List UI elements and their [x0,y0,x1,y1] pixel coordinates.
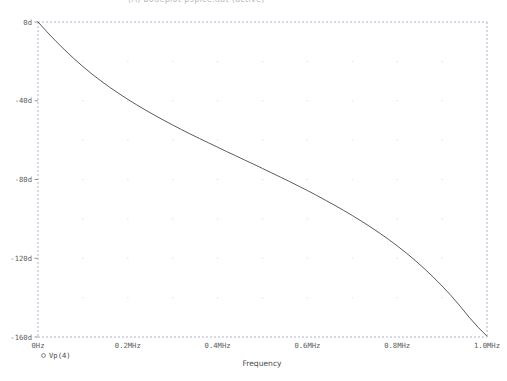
x-tick-label: 0.2MHz [115,341,141,350]
y-tick-label: -80d [15,175,32,184]
grid-dot [217,61,219,63]
grid-dot [172,179,174,181]
grid-dot [352,258,354,260]
grid-dot [82,100,84,102]
grid-dot [396,258,398,260]
x-tick-label: 1.0MHz [474,341,500,350]
grid-dot [307,100,309,102]
x-axis-tick-labels: 0Hz0.2MHz0.4MHz0.6MHz0.8MHz1.0MHz [32,341,500,350]
grid-dot [352,297,354,299]
grid-dot [82,297,84,299]
bode-plot-window: (A) bodeplot-pspice.dat (active) 0d-40d-… [0,0,507,381]
grid-dot [441,179,443,181]
grid-dot [262,179,264,181]
grid-dot [262,258,264,260]
grid-dot [127,61,129,63]
grid-dot [217,218,219,220]
grid-dot [352,179,354,181]
grid-dot [172,218,174,220]
grid-dot [307,179,309,181]
grid-dot [172,61,174,63]
grid-dot [82,179,84,181]
grid-dot [441,100,443,102]
x-tick-label: 0.6MHz [294,341,320,350]
grid-dot [127,179,129,181]
grid-dot [217,100,219,102]
grid-dot [172,139,174,141]
grid-dot [127,258,129,260]
grid-dot [262,297,264,299]
x-tick-label: 0.8MHz [384,341,410,350]
y-axis-tick-labels: 0d-40d-80d-120d-160d [10,18,32,342]
grid-dot [396,61,398,63]
grid-dot [217,297,219,299]
grid-dot [82,258,84,260]
phase-response-chart: 0d-40d-80d-120d-160d 0Hz0.2MHz0.4MHz0.6M… [0,0,507,381]
grid-dot [307,297,309,299]
grid-dot [307,61,309,63]
grid-dots [82,61,443,299]
grid-dot [217,139,219,141]
grid-dot [307,218,309,220]
grid-dot [441,258,443,260]
grid-dot [441,139,443,141]
grid-dot [352,100,354,102]
grid-dot [82,139,84,141]
grid-dot [352,61,354,63]
legend-marker-icon [42,354,46,358]
grid-dot [127,297,129,299]
grid-dot [262,139,264,141]
grid-dot [82,61,84,63]
grid-dot [127,139,129,141]
x-tick-label: 0Hz [32,341,45,350]
grid-dot [352,139,354,141]
grid-dot [82,218,84,220]
grid-dot [262,218,264,220]
grid-dot [396,100,398,102]
grid-dot [172,297,174,299]
grid-dot [127,100,129,102]
grid-dot [262,100,264,102]
grid-dot [172,258,174,260]
grid-dot [262,61,264,63]
grid-dot [396,179,398,181]
grid-dot [127,218,129,220]
grid-dot [307,258,309,260]
chart-legend[interactable]: Vp(4) [42,351,71,360]
y-tick-label: -120d [10,254,32,263]
x-tick-label: 0.4MHz [205,341,231,350]
grid-dot [441,218,443,220]
grid-dot [352,218,354,220]
y-tick-label: -40d [15,96,32,105]
grid-dot [441,61,443,63]
legend-label-vp4: Vp(4) [49,351,71,360]
grid-dot [441,297,443,299]
grid-dot [396,218,398,220]
grid-dot [217,258,219,260]
x-axis-title: Frequency [242,359,282,368]
grid-dot [172,100,174,102]
grid-dot [217,179,219,181]
y-tick-label: -160d [10,333,32,342]
y-tick-label: 0d [23,18,32,27]
y-axis-ticks [35,22,39,337]
grid-dot [396,139,398,141]
grid-dot [307,139,309,141]
grid-dot [396,297,398,299]
